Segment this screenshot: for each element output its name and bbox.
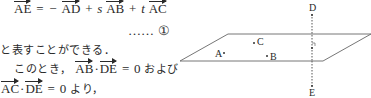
point-b [266, 55, 268, 57]
point-foot [311, 47, 313, 49]
point-c [253, 42, 255, 44]
label-e: E [309, 87, 315, 98]
label-c: C [257, 36, 264, 47]
point-d [311, 14, 313, 16]
plane-diagram: D E A C B [0, 0, 371, 98]
point-a [223, 52, 225, 54]
label-a: A [215, 48, 223, 59]
label-b: B [270, 51, 277, 62]
label-d: D [309, 2, 316, 13]
